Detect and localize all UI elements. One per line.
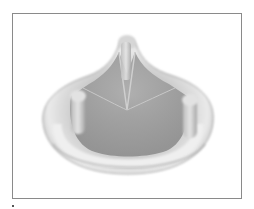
heart-valve-photo [13,14,243,200]
corner-dot [12,205,14,207]
figure-frame [12,13,242,199]
stent-post-right [182,94,198,138]
stent-post-left [70,90,86,134]
